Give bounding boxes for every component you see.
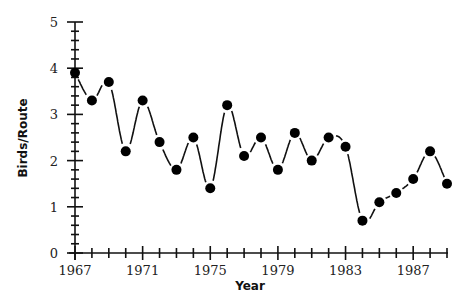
line-segment bbox=[282, 140, 290, 163]
data-series-line bbox=[78, 79, 444, 218]
data-point-1977 bbox=[239, 151, 249, 161]
data-point-1967 bbox=[70, 68, 80, 78]
data-point-1974 bbox=[188, 133, 198, 143]
x-axis-tick-labels: 196719711975197919831987 bbox=[58, 263, 429, 278]
data-point-1988 bbox=[425, 146, 435, 156]
line-segment bbox=[386, 196, 391, 198]
line-segment bbox=[130, 107, 139, 144]
line-segment bbox=[435, 157, 444, 178]
data-point-1984 bbox=[357, 216, 367, 226]
data-point-1969 bbox=[104, 77, 114, 87]
data-point-1987 bbox=[408, 174, 418, 184]
data-point-1983 bbox=[341, 142, 351, 152]
line-segment bbox=[300, 138, 307, 155]
line-segment bbox=[181, 143, 188, 163]
line-segment bbox=[78, 79, 86, 94]
line-segment bbox=[417, 157, 424, 173]
line-segment bbox=[148, 107, 157, 135]
data-point-1981 bbox=[307, 156, 317, 166]
line-segment bbox=[336, 136, 342, 140]
y-tick-label: 2 bbox=[50, 154, 58, 169]
y-tick-label: 0 bbox=[50, 246, 58, 261]
x-tick-label: 1975 bbox=[194, 263, 227, 278]
data-point-1982 bbox=[324, 133, 334, 143]
y-tick-label: 3 bbox=[50, 107, 58, 122]
data-point-1979 bbox=[273, 165, 283, 175]
data-point-1985 bbox=[374, 197, 384, 207]
data-point-1973 bbox=[171, 165, 181, 175]
data-point-1989 bbox=[442, 179, 452, 189]
line-segment bbox=[370, 209, 375, 219]
x-tick-label: 1979 bbox=[261, 263, 294, 278]
data-series-markers bbox=[70, 68, 452, 226]
line-segment bbox=[348, 154, 360, 213]
data-point-1980 bbox=[290, 128, 300, 138]
line-segment bbox=[197, 145, 206, 183]
y-tick-label: 4 bbox=[50, 61, 58, 76]
y-tick-label: 1 bbox=[50, 200, 58, 215]
data-point-1976 bbox=[222, 100, 232, 110]
line-segment bbox=[163, 150, 171, 166]
y-axis-tick-labels: 012345 bbox=[50, 15, 58, 261]
line-segment bbox=[97, 85, 102, 95]
data-point-1986 bbox=[391, 188, 401, 198]
data-point-1978 bbox=[256, 133, 266, 143]
line-segment bbox=[317, 144, 323, 156]
line-segment bbox=[250, 143, 255, 153]
y-axis-title: Birds/Route bbox=[16, 98, 30, 177]
line-segment bbox=[232, 111, 241, 148]
x-tick-label: 1971 bbox=[126, 263, 159, 278]
data-point-1972 bbox=[155, 137, 165, 147]
line-chart: 012345 196719711975197919831987 Year Bir… bbox=[0, 0, 471, 306]
y-tick-label: 5 bbox=[50, 15, 58, 30]
x-tick-label: 1983 bbox=[329, 263, 362, 278]
data-point-1968 bbox=[87, 96, 97, 106]
line-segment bbox=[266, 144, 273, 163]
x-tick-label: 1987 bbox=[397, 263, 430, 278]
data-point-1971 bbox=[138, 96, 148, 106]
data-point-1970 bbox=[121, 146, 131, 156]
line-segment bbox=[213, 113, 224, 181]
line-segment bbox=[403, 184, 409, 188]
x-axis-title: Year bbox=[234, 279, 265, 293]
line-segment bbox=[112, 90, 123, 144]
x-tick-label: 1967 bbox=[58, 263, 91, 278]
data-point-1975 bbox=[205, 183, 215, 193]
